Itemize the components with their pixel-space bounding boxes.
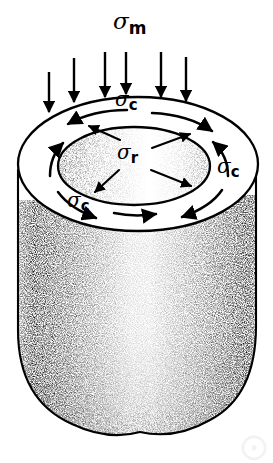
sigma-c-bottom-subscript: c <box>81 197 90 215</box>
watermark: ⨀ <box>241 431 269 461</box>
sigma-c-top-subscript: c <box>129 96 138 114</box>
sigma-c-top-symbol: σ <box>115 87 129 111</box>
label-sigma-c-right: σc <box>217 156 240 180</box>
label-sigma-c-top: σc <box>115 89 138 113</box>
label-sigma-m: σm <box>113 10 146 37</box>
sigma-c-right-subscript: c <box>231 163 240 181</box>
label-sigma-r-center: σr <box>117 142 138 166</box>
sigma-c-bottom-symbol: σ <box>67 188 81 212</box>
sigma-r-symbol: σ <box>117 140 131 164</box>
label-sigma-c-bottom: σc <box>67 190 90 214</box>
sigma-r-subscript: r <box>131 149 138 167</box>
sigma-c-right-symbol: σ <box>217 154 231 178</box>
sigma-m-symbol: σ <box>113 8 129 34</box>
sigma-m-subscript: m <box>129 18 147 38</box>
stress-diagram-figure <box>0 0 273 463</box>
